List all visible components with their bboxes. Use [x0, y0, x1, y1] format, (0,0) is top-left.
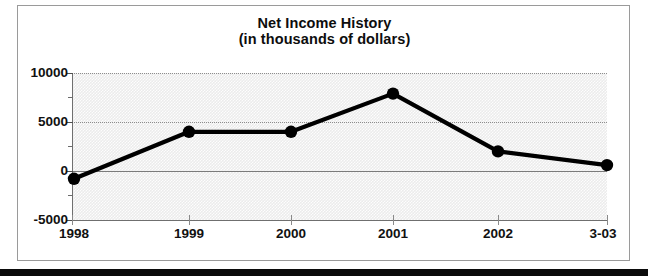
data-point-1999 — [183, 126, 195, 138]
data-point-1998 — [68, 173, 80, 185]
series-markers — [68, 87, 613, 185]
data-point-3-03 — [601, 159, 613, 171]
series-line — [74, 94, 607, 179]
net-income-series — [18, 6, 631, 262]
chart-figure-frame: Net Income History (in thousands of doll… — [17, 5, 630, 261]
data-point-2002 — [492, 145, 504, 157]
page-bottom-rule — [0, 269, 648, 276]
data-point-2000 — [285, 126, 297, 138]
plot-region: 10000 5000 0 -5000 1998 1999 2000 2001 2… — [18, 6, 631, 262]
data-point-2001 — [387, 87, 399, 99]
